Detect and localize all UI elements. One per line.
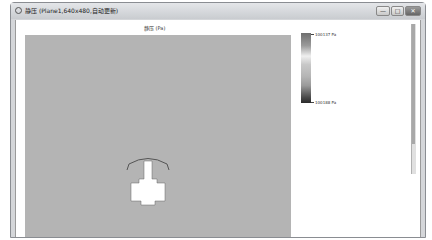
plot-title: 静压 (Pa) xyxy=(144,24,165,31)
window-title: 静压 (Plane1,640x480,自动更新) xyxy=(25,6,118,15)
colorbar-tick-min xyxy=(311,102,314,103)
minimize-button[interactable]: — xyxy=(376,6,390,16)
close-icon: ✕ xyxy=(406,7,420,15)
maximize-icon: □ xyxy=(392,7,403,15)
geometry-outline xyxy=(25,35,291,237)
colorbar xyxy=(301,33,311,103)
colorbar-max-label: 100137 Pa xyxy=(315,32,336,37)
client-area: 静压 (Pa) 100137 Pa 100188 Pa xyxy=(15,20,421,237)
colorbar-min-label: 100188 Pa xyxy=(315,100,336,105)
minimize-icon: — xyxy=(377,7,389,15)
vertical-scrollbar[interactable] xyxy=(411,24,416,174)
close-button[interactable]: ✕ xyxy=(405,6,421,16)
contour-plot[interactable] xyxy=(25,35,291,237)
title-bar[interactable]: 静压 (Plane1,640x480,自动更新) — □ ✕ xyxy=(11,3,425,19)
app-icon xyxy=(15,7,22,14)
colorbar-tick-max xyxy=(311,34,314,35)
plot-window: 静压 (Plane1,640x480,自动更新) — □ ✕ 静压 (Pa) 1… xyxy=(10,2,426,238)
maximize-button[interactable]: □ xyxy=(391,6,404,16)
scrollbar-thumb[interactable] xyxy=(412,24,415,144)
